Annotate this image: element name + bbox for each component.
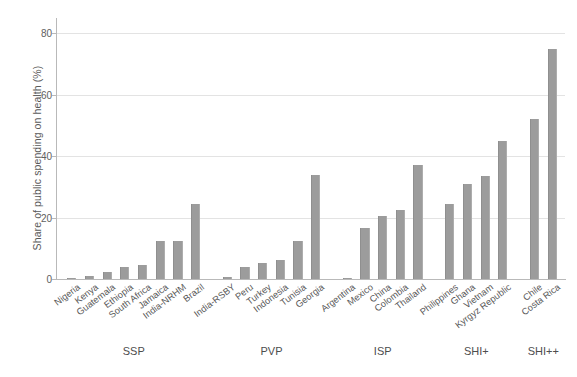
y-tick-label: 60 bbox=[22, 89, 52, 100]
bar bbox=[120, 267, 129, 279]
bar bbox=[481, 176, 490, 279]
y-tick-label: 20 bbox=[22, 212, 52, 223]
bar bbox=[343, 278, 352, 279]
group-label: ISP bbox=[374, 345, 392, 357]
bar bbox=[445, 204, 454, 279]
group-label: SHI++ bbox=[528, 345, 559, 357]
bar bbox=[463, 184, 472, 279]
bar bbox=[378, 216, 387, 279]
bar bbox=[138, 265, 147, 279]
bar bbox=[191, 204, 200, 279]
y-tick-label: 40 bbox=[22, 151, 52, 162]
bar bbox=[413, 165, 422, 279]
bar bbox=[360, 228, 369, 279]
bar bbox=[548, 49, 557, 279]
bar bbox=[67, 278, 76, 279]
gridline bbox=[57, 33, 565, 34]
y-tick-label: 80 bbox=[22, 28, 52, 39]
bar bbox=[530, 119, 539, 279]
bar-chart: Share of public spending on health (%) 0… bbox=[0, 0, 577, 377]
group-label: PVP bbox=[260, 345, 282, 357]
bar bbox=[498, 141, 507, 279]
bar bbox=[223, 277, 232, 279]
bar bbox=[156, 241, 165, 279]
bar bbox=[396, 210, 405, 279]
x-axis-line bbox=[56, 279, 566, 280]
y-axis-ticks: 020406080 bbox=[18, 18, 52, 280]
gridline bbox=[57, 156, 565, 157]
group-label: SHI+ bbox=[464, 345, 489, 357]
group-label: SSP bbox=[123, 345, 145, 357]
gridline bbox=[57, 95, 565, 96]
bar bbox=[240, 267, 249, 279]
bar bbox=[173, 241, 182, 279]
bar bbox=[103, 272, 112, 279]
y-tick-label: 0 bbox=[22, 274, 52, 285]
bar bbox=[293, 241, 302, 279]
plot-area bbox=[57, 18, 565, 279]
bar bbox=[258, 263, 267, 279]
bar bbox=[311, 175, 320, 279]
bar bbox=[85, 276, 94, 279]
bar bbox=[276, 260, 285, 279]
